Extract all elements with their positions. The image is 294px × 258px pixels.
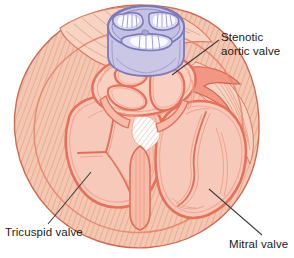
label-mitral-valve: Mitral valve [229, 238, 288, 252]
label-stenotic-aortic-valve: Stenotic aortic valve [221, 31, 280, 58]
heart-cross-section-figure: Stenotic aortic valve Tricuspid valve Mi… [0, 0, 294, 258]
label-tricuspid-valve: Tricuspid valve [5, 226, 83, 240]
stenotic-aortic-valve-group [108, 6, 184, 76]
stenotic-orifice [142, 30, 149, 35]
